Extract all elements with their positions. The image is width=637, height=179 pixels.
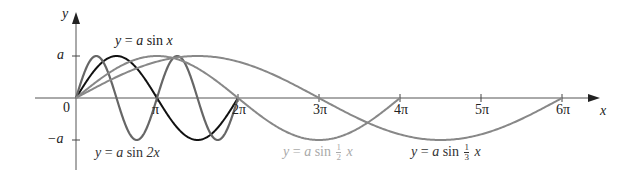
x-tick-4pi: 4π — [394, 102, 408, 118]
label-sin-x: y = a sin x — [115, 33, 173, 49]
origin-label: 0 — [63, 100, 70, 116]
y-tick-a: a — [57, 47, 64, 63]
x-axis-arrow-icon — [588, 94, 600, 102]
x-tick-3pi: 3π — [313, 102, 327, 118]
x-axis-label: x — [600, 103, 606, 119]
y-tick-neg-a: −a — [47, 131, 63, 147]
fraction-half: 12 — [336, 143, 341, 162]
y-axis-label: y — [62, 6, 68, 22]
x-tick-pi: π — [152, 102, 159, 118]
x-tick-5pi: 5π — [475, 102, 489, 118]
label-sin-2x: y = a sin 2x — [95, 145, 160, 161]
y-axis-arrow-icon — [72, 12, 80, 24]
x-tick-2pi: 2π — [232, 102, 246, 118]
label-sin-third-x: y = a sin 13 x — [411, 143, 481, 162]
x-tick-6pi: 6π — [556, 102, 570, 118]
label-sin-half-x: y = a sin 12 x — [283, 143, 353, 162]
fraction-third: 13 — [464, 143, 469, 162]
